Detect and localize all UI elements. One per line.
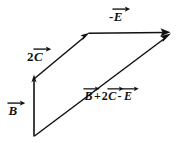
label-2c: 2C: [27, 50, 43, 63]
label-minus-e: -E: [109, 10, 123, 23]
label-minus-e-symbol: E: [113, 10, 123, 23]
label-b: B: [8, 104, 18, 117]
label-resultant-operator1: +: [93, 90, 102, 102]
label-resultant-term2: C: [108, 90, 117, 102]
label-2c-symbol: C: [34, 50, 44, 63]
vector-minus-e: [89, 28, 171, 36]
vector-diagram-figure: -E 2C B B+2C-E: [0, 0, 181, 143]
label-b-symbol: B: [8, 104, 18, 117]
label-resultant-term1: B: [84, 90, 93, 102]
vector-diagram-canvas: [0, 0, 181, 143]
label-resultant: B+2C-E: [84, 90, 132, 102]
vector-resultant: [35, 34, 172, 136]
label-resultant-term3: E: [123, 90, 132, 102]
vector-b: [31, 75, 36, 137]
